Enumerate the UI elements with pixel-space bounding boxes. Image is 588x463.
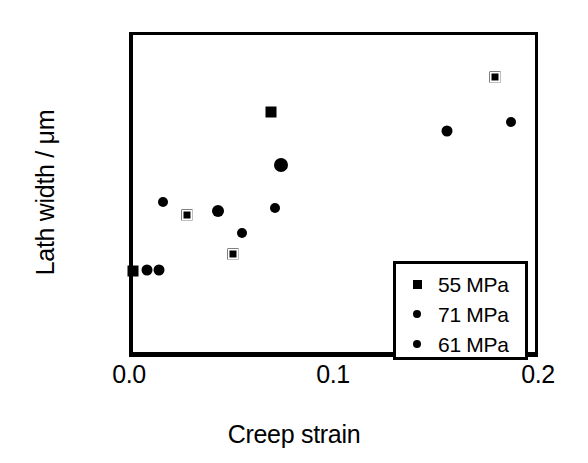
data-point [237, 228, 247, 238]
data-point [266, 107, 277, 118]
data-point [441, 125, 452, 136]
data-point [142, 264, 153, 275]
data-point [182, 209, 193, 220]
y-axis-title: Lath width / μm [31, 53, 60, 333]
data-point [506, 117, 516, 127]
data-point [158, 197, 168, 207]
data-point [153, 264, 164, 275]
legend-box: 55 MPa 71 MPa 61 MPa [393, 261, 528, 360]
legend-item-2[interactable]: 61 MPa [396, 329, 525, 359]
data-point [228, 248, 239, 259]
figure-scatter-lath-width-vs-creep-strain: 0 1 2 3 4 0.0 0.1 0.2 Creep strain Lath … [0, 0, 588, 463]
legend-item-0[interactable]: 55 MPa [396, 269, 525, 299]
legend-circle-marker-icon-1 [396, 310, 438, 318]
legend-item-1[interactable]: 71 MPa [396, 299, 525, 329]
xtick-label-0.1: 0.1 [303, 362, 363, 387]
data-point [128, 265, 139, 276]
legend-label-0: 55 MPa [438, 274, 509, 295]
data-point [274, 158, 288, 172]
data-point [270, 203, 280, 213]
x-axis-title: Creep strain [0, 420, 588, 449]
legend-label-1: 71 MPa [438, 304, 509, 325]
data-point [489, 72, 500, 83]
legend-square-marker-icon [396, 280, 438, 289]
legend-circle-marker-icon-2 [396, 340, 438, 348]
legend-label-2: 61 MPa [438, 334, 509, 355]
data-point [212, 205, 224, 217]
xtick-label-0.0: 0.0 [99, 362, 159, 387]
xtick-label-0.2: 0.2 [508, 362, 568, 387]
